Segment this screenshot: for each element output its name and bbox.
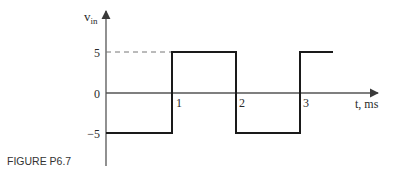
y-axis-label: vin — [84, 9, 98, 26]
x-tick-1: 1 — [176, 96, 182, 110]
x-tick-3: 3 — [303, 96, 309, 110]
square-wave-figure: vin 5 0 −5 1 2 3 t, ms FIGURE P6.7 — [0, 0, 398, 179]
figure-caption: FIGURE P6.7 — [7, 155, 71, 167]
y-tick-0: 0 — [94, 87, 100, 101]
y-tick-5: 5 — [94, 46, 100, 60]
x-axis-label: t, ms — [355, 97, 379, 111]
y-tick-neg5: −5 — [87, 127, 100, 141]
x-tick-2: 2 — [239, 96, 245, 110]
